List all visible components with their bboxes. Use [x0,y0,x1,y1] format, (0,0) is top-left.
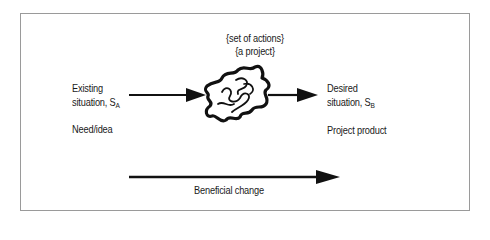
situation-sb-text: situation, SB [327,95,375,109]
arrow-existing-to-project [129,88,206,102]
a-project-text: {a project} [235,45,275,57]
beneficial-change-text: Beneficial change [194,184,264,196]
subscript-a: A [116,101,120,110]
need-idea-text: Need/idea [72,123,113,135]
existing-situation-label: Existing situation, SA [72,81,120,109]
existing-text: Existing [72,81,120,95]
set-of-actions-label: {set of actions} [211,31,299,45]
arrow-project-to-desired [268,88,318,102]
desired-situation-label: Desired situation, SB [327,81,375,109]
project-cloud-icon [205,66,269,121]
situation-sa-text: situation, SA [72,95,120,109]
situation-text: situation, S [327,96,371,108]
project-product-label: Project product [327,123,387,137]
need-idea-label: Need/idea [72,122,113,136]
a-project-label: {a project} [211,44,299,58]
desired-text: Desired [327,81,375,95]
arrow-beneficial-change [129,170,340,184]
project-product-text: Project product [327,124,387,136]
subscript-b: B [371,101,375,110]
set-of-actions-text: {set of actions} [226,32,284,44]
situation-text: situation, S [72,96,116,108]
beneficial-change-label: Beneficial change [194,183,264,197]
